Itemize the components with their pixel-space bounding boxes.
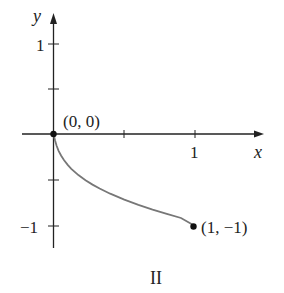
- point-end: [190, 223, 196, 229]
- y-tick-label-1: 1: [36, 36, 45, 55]
- y-axis-label: y: [31, 6, 41, 26]
- figure-caption: II: [150, 268, 162, 288]
- point-origin: [50, 131, 56, 137]
- x-axis-label: x: [253, 142, 262, 162]
- y-tick-label-neg-1: −1: [20, 218, 38, 237]
- x-tick-label-1: 1: [190, 143, 199, 162]
- endpoint-label: (1, −1): [201, 218, 247, 237]
- y-axis-arrow-icon: [50, 13, 57, 24]
- x-axis-arrow-icon: [254, 131, 264, 138]
- graph-figure: y x 1 −1 1 (0, 0) (1, −1) II: [0, 0, 284, 293]
- curve-neg-sqrt: [54, 134, 196, 226]
- origin-label: (0, 0): [63, 112, 100, 131]
